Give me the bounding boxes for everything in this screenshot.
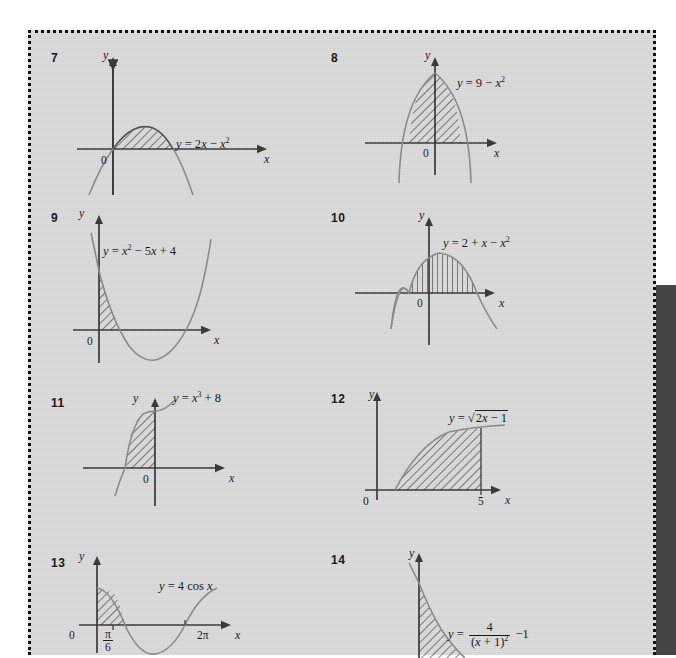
equation-label-13: y = 4 cos x [159,580,213,593]
y-axis-label: y [409,547,414,559]
equation-label-11: y = x3 + 8 [173,392,221,405]
x-axis-label: x [499,297,504,309]
origin-label: 0 [69,630,75,642]
y-axis-label: y [103,49,108,61]
problem-number: 8 [331,51,338,65]
equation-label-14: y = 4 (x + 1)2 −1 [448,621,529,649]
x-axis-label: x [214,334,219,346]
problem-10: 10 y x 0 y = 2 + x − x2 [331,203,621,378]
origin-label: 0 [363,496,369,508]
problem-7: 7 y x 0 y = 2x − x2 [51,43,341,203]
problem-9-figure [67,203,337,378]
y-axis-label: y [79,207,84,219]
problem-11: 11 y x 0 y = x3 + 8 [51,388,341,548]
problem-7-figure [67,43,337,203]
equation-label-8: y = 9 − x2 [457,77,505,90]
origin-label: 0 [101,155,107,167]
tick-label-two-pi: 2π [197,630,209,642]
origin-label: 0 [417,298,423,310]
x-axis-label: x [505,494,510,506]
y-axis-label: y [419,209,424,221]
x-axis-label: x [235,629,240,641]
origin-label: 0 [423,148,429,160]
tick-label-5: 5 [478,496,484,508]
problem-number: 10 [331,211,345,225]
equation-label-10: y = 2 + x − x2 [443,237,510,250]
problem-11-figure [67,388,337,548]
problem-13: 13 y x 0 π [51,548,341,658]
pi-numerator: π [103,628,113,641]
y-axis-label: y [79,550,84,562]
x-axis-label: x [494,147,499,159]
problem-number: 7 [51,51,58,65]
problem-8: 8 y x 0 y = 9 − x2 [331,43,621,203]
tick-label-pi-over-6: π 6 [103,628,113,654]
problem-12: 12 y x 0 5 y = √2x − 1 [331,388,621,548]
problem-number: 11 [51,396,65,410]
equation-label-7: y = 2x − x2 [176,138,230,151]
y-axis-label: y [133,392,138,404]
problem-number: 14 [331,553,345,567]
y-axis-label: y [369,388,374,400]
equation-label-12: y = √2x − 1 [449,412,508,425]
worksheet-page: 7 y x 0 y = 2x − x2 [28,30,656,655]
x-axis-label: x [264,153,269,165]
problem-number: 12 [331,392,345,406]
pi-denominator: 6 [103,641,113,653]
problem-10-figure [347,203,617,378]
origin-label: 0 [143,474,149,486]
y-axis-label: y [425,49,430,61]
origin-label: 0 [87,336,93,348]
fraction-denominator: (x + 1)2 [469,636,510,650]
equation-label-9: y = x2 − 5x + 4 [103,245,176,258]
right-dark-panel [656,285,676,655]
problem-9: 9 y x 0 y = x2 − 5x + 4 [51,203,341,378]
x-axis-label: x [229,472,234,484]
problem-number: 9 [51,211,58,225]
problem-8-figure [347,43,617,203]
problem-14: 14 y y = 4 (x + 1)2 −1 [331,545,621,658]
problem-number: 13 [51,556,65,570]
